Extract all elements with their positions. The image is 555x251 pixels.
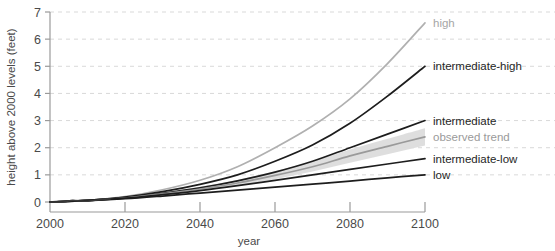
y-tick-label: 3 <box>34 114 41 128</box>
series-label-intermediate-high: intermediate-high <box>433 60 522 72</box>
observed-trend-uncertainty-band <box>50 128 425 202</box>
x-axis-title: year <box>238 235 261 247</box>
y-tick-label: 2 <box>34 141 41 155</box>
y-tick-label: 5 <box>34 60 41 74</box>
x-tick-label: 2100 <box>411 217 439 231</box>
x-tick-label: 2080 <box>336 217 364 231</box>
x-axis: 200020202040206020802100 <box>36 202 439 231</box>
y-tick-label: 4 <box>34 87 41 101</box>
y-tick-label: 7 <box>34 6 41 20</box>
x-tick-label: 2040 <box>186 217 214 231</box>
y-tick-label: 1 <box>34 168 41 182</box>
x-tick-label: 2000 <box>36 217 64 231</box>
chart-svg: 01234567 200020202040206020802100 highin… <box>0 0 555 251</box>
x-tick-label: 2060 <box>261 217 289 231</box>
y-axis: 01234567 <box>34 6 50 210</box>
series-label-low: low <box>433 169 451 181</box>
series-label-high: high <box>433 17 455 29</box>
y-tick-label: 6 <box>34 33 41 47</box>
series-label-intermediate-low: intermediate-low <box>433 153 518 165</box>
y-tick-label: 0 <box>34 196 41 210</box>
sea-level-rise-chart: 01234567 200020202040206020802100 highin… <box>0 0 555 251</box>
series-label-observed-trend: observed trend <box>433 131 510 143</box>
series-labels: highintermediate-highintermediateobserve… <box>433 17 522 181</box>
x-tick-label: 2020 <box>111 217 139 231</box>
observed-trend-band <box>50 128 425 202</box>
series-line-low <box>50 175 425 202</box>
y-axis-title: height above 2000 levels (feet) <box>5 28 17 185</box>
series-label-intermediate: intermediate <box>433 115 496 127</box>
